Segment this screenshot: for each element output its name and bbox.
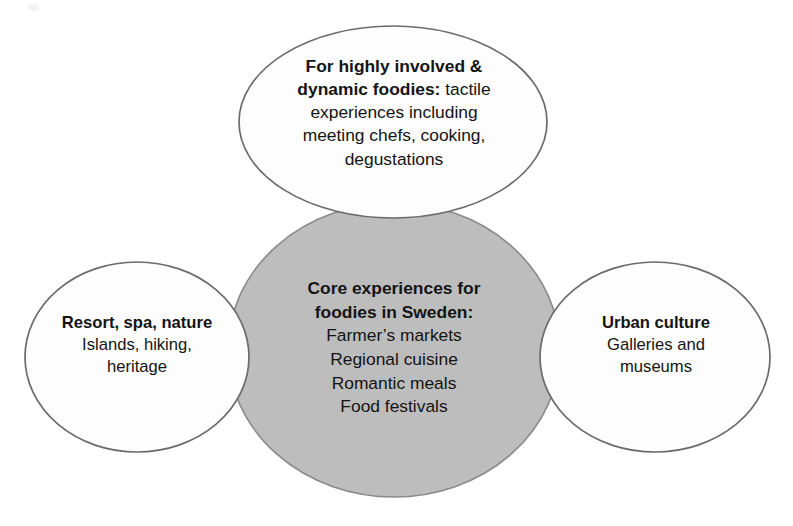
center-item-farmers-markets: Farmer’s markets bbox=[256, 324, 532, 348]
right-title: Urban culture bbox=[548, 312, 764, 334]
center-ellipse-label: Core experiences for foodies in Sweden: … bbox=[256, 277, 532, 419]
top-body-line-2: meeting chefs, cooking, bbox=[258, 124, 530, 147]
right-body-line-2: museums bbox=[548, 356, 764, 378]
left-body-line-1: Islands, hiking, bbox=[28, 334, 246, 356]
left-ellipse-label: Resort, spa, nature Islands, hiking, her… bbox=[28, 312, 246, 379]
left-title: Resort, spa, nature bbox=[28, 312, 246, 334]
right-body-line-1: Galleries and bbox=[548, 334, 764, 356]
diagram-canvas: For highly involved & dynamic foodies: t… bbox=[0, 0, 793, 526]
top-title-text-1: For highly involved & bbox=[306, 56, 483, 76]
top-title-line-1: For highly involved & bbox=[258, 55, 530, 78]
top-body-line-3: degustations bbox=[258, 148, 530, 171]
center-item-romantic-meals: Romantic meals bbox=[256, 372, 532, 396]
top-body-line-1: experiences including bbox=[258, 101, 530, 124]
center-title-line-1: Core experiences for bbox=[256, 277, 532, 301]
left-body-line-2: heritage bbox=[28, 356, 246, 378]
top-body-first-line: tactile bbox=[440, 79, 490, 99]
right-ellipse-label: Urban culture Galleries and museums bbox=[548, 312, 764, 379]
center-item-food-festivals: Food festivals bbox=[256, 395, 532, 419]
top-title-text-2: dynamic foodies: bbox=[297, 79, 440, 99]
top-title-line-2: dynamic foodies: tactile bbox=[258, 78, 530, 101]
center-item-regional-cuisine: Regional cuisine bbox=[256, 348, 532, 372]
center-title-line-2: foodies in Sweden: bbox=[256, 301, 532, 325]
top-ellipse-label: For highly involved & dynamic foodies: t… bbox=[258, 55, 530, 171]
